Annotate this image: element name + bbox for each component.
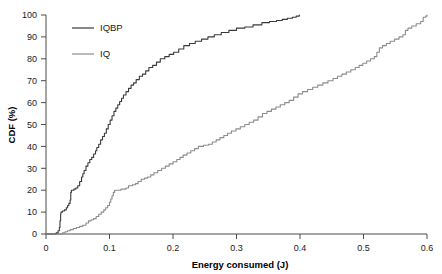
y-tick-label: 100 [22, 10, 37, 20]
x-tick-label: 0.1 [103, 243, 116, 253]
y-tick-label: 70 [27, 76, 37, 86]
x-tick-label: 0.3 [230, 243, 243, 253]
y-tick-label: 0 [32, 229, 37, 239]
x-tick-label: 0.2 [167, 243, 180, 253]
legend-label-iq: IQ [100, 48, 110, 59]
chart-legend: IQBPIQ [72, 22, 123, 59]
y-axis-ticks: 0102030405060708090100 [22, 10, 46, 239]
y-tick-label: 50 [27, 120, 37, 130]
y-tick-label: 90 [27, 32, 37, 42]
y-tick-label: 80 [27, 54, 37, 64]
y-axis-title: CDF (%) [6, 107, 17, 144]
legend-label-iqbp: IQBP [100, 22, 123, 33]
y-tick-label: 60 [27, 98, 37, 108]
x-axis-ticks: 00.10.20.30.40.50.6 [43, 234, 433, 253]
y-tick-label: 10 [27, 207, 37, 217]
x-tick-label: 0.4 [294, 243, 307, 253]
x-tick-label: 0.5 [357, 243, 370, 253]
y-tick-label: 30 [27, 164, 37, 174]
x-tick-label: 0 [43, 243, 48, 253]
series-line-iqbp [46, 15, 299, 234]
x-axis-title: Energy consumed (J) [192, 259, 289, 270]
chart-figure: 0102030405060708090100 00.10.20.30.40.50… [0, 0, 442, 274]
y-tick-label: 20 [27, 185, 37, 195]
x-tick-label: 0.6 [421, 243, 434, 253]
chart-canvas: 0102030405060708090100 00.10.20.30.40.50… [0, 0, 442, 274]
y-tick-label: 40 [27, 142, 37, 152]
